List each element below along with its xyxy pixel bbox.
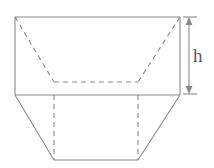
geometry-figure: h	[0, 0, 214, 168]
lower-trapezoid-visible-edges	[15, 95, 180, 160]
height-label: h	[193, 46, 203, 65]
solid-shape-drawing	[0, 0, 214, 168]
upper-prism-hidden-edges	[15, 17, 180, 82]
arrowhead-up-icon	[186, 17, 193, 25]
hidden-diagonal-right	[138, 17, 180, 82]
lower-trapezoid-hidden-edges	[54, 95, 138, 160]
hidden-diagonal-left	[15, 17, 54, 82]
arrowhead-down-icon	[186, 86, 193, 94]
slant-left-edge	[15, 95, 54, 160]
slant-right-edge	[138, 95, 180, 160]
